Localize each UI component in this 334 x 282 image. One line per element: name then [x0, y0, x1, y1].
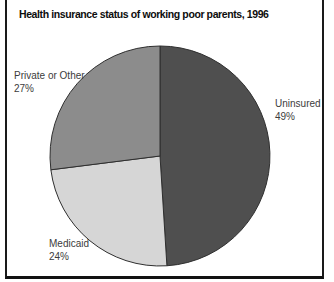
slice-label-private-or-other: Private or Other 27%: [14, 69, 85, 95]
slice-label-uninsured-pct: 49%: [275, 110, 321, 123]
slice-label-medicaid-pct: 24%: [49, 250, 89, 263]
slice-label-medicaid-text: Medicaid: [49, 238, 89, 249]
pie-slice-private-or-other: [50, 46, 160, 170]
pie-slice-uninsured: [160, 46, 270, 266]
slice-label-uninsured: Uninsured 49%: [275, 97, 321, 123]
slice-label-private-or-other-text: Private or Other: [14, 70, 85, 81]
slice-label-private-or-other-pct: 27%: [14, 82, 85, 95]
slice-label-uninsured-text: Uninsured: [275, 98, 321, 109]
slice-label-medicaid: Medicaid 24%: [49, 237, 89, 263]
figure: Health insurance status of working poor …: [0, 0, 334, 282]
